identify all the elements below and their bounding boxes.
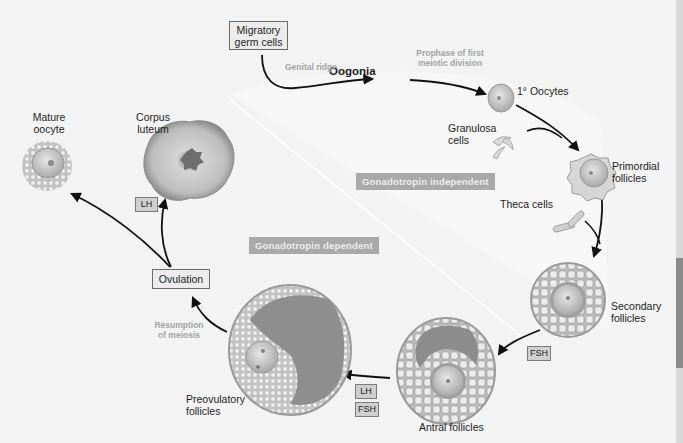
preovulatory-follicle-cell [229, 285, 351, 415]
label-granulosa-cells: Granulosa cells [448, 122, 496, 146]
arrow-antral-to-preovulatory [343, 374, 390, 378]
label-resumption-of-meiosis: Resumption of meiosis [151, 320, 207, 340]
antral-follicle-cell [397, 318, 495, 424]
hormone-fsh-secondary: FSH [527, 346, 551, 361]
hormone-lh-antral: LH [355, 384, 377, 399]
secondary-follicle-cell [531, 263, 605, 337]
mature-oocyte-cell [22, 141, 72, 191]
phase-gonadotropin-dependent: Gonadotropin dependent [249, 237, 379, 254]
primordial-follicle-cell [567, 154, 616, 201]
label-genital-ridge: Genital ridge [285, 62, 337, 72]
arrow-ovulation-to-corpus [162, 200, 171, 267]
label-primordial-follicles: Primordial follicles [612, 160, 659, 184]
page-edge-tab [676, 258, 683, 368]
phase-gonadotropin-independent: Gonadotropin independent [356, 173, 495, 190]
primary-oocyte-cell [488, 84, 514, 112]
oogenesis-diagram: Migratory germ cells Ovulation LH FSH LH… [0, 0, 683, 443]
label-antral-follicles: Antral follicles [419, 421, 484, 433]
migratory-line1: Migratory [230, 24, 287, 36]
label-preovulatory-follicles: Preovulatory follicles [186, 393, 245, 417]
page-edge-strip [676, 0, 683, 443]
hormone-fsh-antral: FSH [355, 402, 379, 417]
migratory-line2: germ cells [230, 36, 287, 48]
migratory-germ-cells-box: Migratory germ cells [229, 21, 288, 50]
label-corpus-luteum: Corpus luteum [129, 111, 177, 135]
label-prophase-first-meiotic: Prophase of first meiotic division [410, 48, 490, 68]
label-mature-oocyte: Mature oocyte [25, 111, 73, 135]
ovulation-box: Ovulation [152, 269, 210, 289]
hormone-lh-corpus: LH [135, 197, 158, 212]
label-secondary-follicles: Secondary follicles [611, 300, 661, 324]
label-primary-oocytes: 1° Oocytes [517, 85, 568, 97]
label-theca-cells: Theca cells [500, 198, 553, 210]
